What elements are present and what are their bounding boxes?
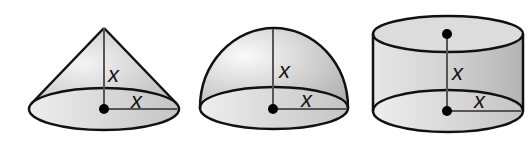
hemisphere-center-dot <box>268 104 278 114</box>
cone-center-dot <box>99 104 109 114</box>
cylinder-height-label: x <box>451 60 464 85</box>
hemisphere: x x <box>200 28 348 129</box>
cone-height-label: x <box>107 62 120 87</box>
hemisphere-height-label: x <box>278 58 291 83</box>
cylinder-top-center-dot <box>442 29 452 39</box>
cone: x x <box>29 28 179 130</box>
cylinder-radius-label: x <box>473 88 486 113</box>
cylinder: x x <box>373 16 523 132</box>
cone-radius-label: x <box>130 88 143 113</box>
hemisphere-radius-label: x <box>300 87 313 112</box>
solids-diagram: x x x x x x <box>0 0 531 147</box>
cylinder-bottom-center-dot <box>442 106 452 116</box>
